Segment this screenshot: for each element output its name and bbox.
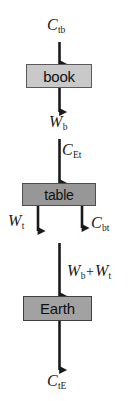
label-w-sum: Wb+Wt: [67, 263, 111, 279]
label-c-et: CEt: [62, 142, 81, 158]
label-c-et-subscript: Et: [73, 150, 81, 160]
label-w-t: Wt: [8, 213, 24, 229]
node-table: table: [22, 183, 96, 206]
label-c-te: CtE: [47, 373, 66, 389]
label-c-bt-symbol: C: [91, 214, 102, 231]
label-c-bt: Cbt: [91, 215, 109, 231]
label-c-et-symbol: C: [62, 141, 73, 158]
label-c-tb-subscript: tb: [58, 25, 65, 35]
label-w-t-symbol: W: [8, 212, 21, 229]
label-w-b-subscript: b: [63, 122, 68, 132]
label-w-sum-first-subscript: b: [81, 271, 86, 281]
label-c-te-subscript: tE: [58, 381, 66, 391]
label-w-sum-second-subscript: t: [109, 271, 112, 281]
label-c-te-symbol: C: [47, 372, 58, 389]
force-interaction-diagram: book table Earth Ctb Wb CEt Wt Cbt Wb+Wt…: [0, 0, 131, 401]
node-book: book: [26, 64, 92, 88]
label-c-tb: Ctb: [47, 17, 65, 33]
node-book-label: book: [43, 69, 75, 84]
label-w-sum-first-symbol: W: [67, 262, 80, 279]
label-w-b: Wb: [49, 114, 67, 130]
label-w-t-subscript: t: [22, 221, 25, 231]
node-earth: Earth: [23, 296, 92, 321]
label-c-bt-subscript: bt: [102, 223, 109, 233]
label-c-tb-symbol: C: [47, 16, 58, 33]
node-table-label: table: [44, 188, 73, 202]
node-earth-label: Earth: [40, 301, 75, 316]
label-w-sum-operator: +: [85, 264, 95, 279]
label-w-b-symbol: W: [49, 113, 62, 130]
label-w-sum-second-symbol: W: [95, 262, 108, 279]
